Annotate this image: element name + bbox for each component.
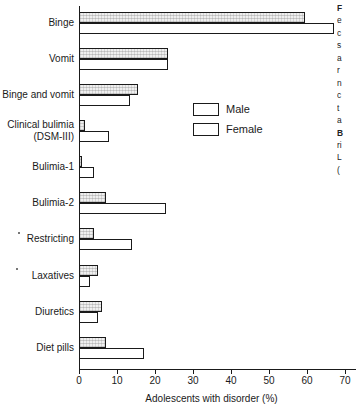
x-axis-title: Adolescents with disorder (%): [0, 393, 363, 404]
chart-figure: Binge Vomit Binge and vomit Clinical bul…: [0, 0, 363, 413]
bar-female-binge: [79, 23, 334, 34]
caption-line-2: e: [337, 14, 363, 26]
category-label-bulimia-2: Bulimia-2: [0, 197, 74, 209]
bar-male-diet-pills: [79, 337, 106, 348]
caption-line-4: s: [337, 39, 363, 51]
side-caption: F e c s a r n c t a B ri L (: [337, 2, 363, 176]
category-label-vomit: Vomit: [0, 53, 74, 65]
caption-line-7: n: [337, 77, 363, 89]
caption-line-6: r: [337, 64, 363, 76]
category-label-binge-and-vomit: Binge and vomit: [0, 89, 74, 101]
x-tick-label-0: 0: [64, 375, 94, 386]
bar-male-laxatives: [79, 265, 98, 276]
x-tick-20: [155, 370, 156, 374]
bar-male-vomit: [79, 48, 168, 59]
x-tick-40: [231, 370, 232, 374]
x-tick-30: [193, 370, 194, 374]
caption-line-10: a: [337, 114, 363, 126]
x-tick-50: [269, 370, 270, 374]
bar-female-clinical-bulimia: [79, 131, 109, 142]
bar-male-bulimia-1: [79, 156, 82, 167]
x-axis-title-text: Adolescents with disorder (%): [85, 393, 277, 404]
x-tick-label-10: 10: [102, 375, 132, 386]
category-label-bulimia-1: Bulimia-1: [0, 161, 74, 173]
caption-line-14: (: [337, 164, 363, 176]
x-tick-label-50: 50: [254, 375, 284, 386]
caption-line-11: B: [337, 127, 363, 139]
legend-label-female: Female: [226, 123, 263, 135]
caption-line-8: c: [337, 89, 363, 101]
bar-male-diuretics: [79, 301, 102, 312]
bar-male-restricting: [79, 228, 94, 239]
category-label-laxatives: Laxatives: [0, 270, 74, 282]
bar-male-bulimia-2: [79, 192, 106, 203]
x-tick-label-70: 70: [330, 375, 360, 386]
legend: Male Female: [193, 101, 263, 141]
legend-item-female: Female: [193, 121, 263, 137]
x-tick-label-60: 60: [292, 375, 322, 386]
x-tick-label-30: 30: [178, 375, 208, 386]
category-label-diuretics: Diuretics: [0, 306, 74, 318]
category-label-clinical-bulimia: Clinical bulimia (DSM-III): [0, 119, 74, 142]
bar-female-bulimia-2: [79, 203, 166, 214]
caption-line-9: t: [337, 102, 363, 114]
bar-female-diet-pills: [79, 348, 144, 359]
legend-swatch-male-icon: [193, 103, 219, 116]
bar-male-binge: [79, 12, 305, 23]
bar-female-laxatives: [79, 276, 90, 287]
bar-female-bulimia-1: [79, 167, 94, 178]
plot-area: [79, 6, 333, 370]
category-label-diet-pills: Diet pills: [0, 342, 74, 354]
x-tick-0: [79, 370, 80, 374]
bar-female-restricting: [79, 239, 132, 250]
x-tick-label-20: 20: [140, 375, 170, 386]
bar-female-vomit: [79, 59, 168, 70]
caption-line-5: a: [337, 52, 363, 64]
x-tick-label-40: 40: [216, 375, 246, 386]
x-tick-70: [345, 370, 346, 374]
x-tick-10: [117, 370, 118, 374]
bar-female-diuretics: [79, 312, 98, 323]
category-label-restricting: Restricting: [0, 233, 74, 245]
category-label-binge: Binge: [0, 17, 74, 29]
scan-speck: [18, 232, 20, 234]
bar-male-binge-and-vomit: [79, 84, 138, 95]
legend-label-male: Male: [226, 103, 250, 115]
caption-line-1: F: [337, 2, 363, 14]
legend-item-male: Male: [193, 101, 263, 117]
caption-line-12: ri: [337, 139, 363, 151]
x-tick-60: [307, 370, 308, 374]
scan-speck: [16, 268, 18, 270]
bar-male-clinical-bulimia: [79, 120, 85, 131]
bar-female-binge-and-vomit: [79, 95, 130, 106]
caption-line-3: c: [337, 27, 363, 39]
legend-swatch-female-icon: [193, 123, 219, 136]
caption-line-13: L: [337, 151, 363, 163]
